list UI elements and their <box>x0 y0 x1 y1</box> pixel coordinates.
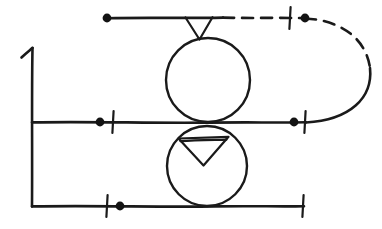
triangle-top-edge-doubling <box>181 140 227 142</box>
open-v-icon <box>186 17 213 39</box>
return-curve-solid-lower <box>306 68 370 123</box>
axis-arrow-flag-icon <box>22 48 33 58</box>
tick-middle-right <box>304 111 305 133</box>
middle-line <box>32 122 306 123</box>
dot-middle-left <box>96 118 105 127</box>
top-open-v-marker <box>186 17 213 39</box>
return-curve-dashed-upper <box>305 19 370 69</box>
top-line-dashed-segment <box>223 18 304 19</box>
dot-middle-right <box>290 118 299 127</box>
tick-middle-left <box>112 111 113 133</box>
diagram-canvas <box>0 0 382 229</box>
dot-top-right <box>301 14 310 23</box>
upper-circle <box>166 38 250 122</box>
sketch-drawing <box>0 0 382 229</box>
bottom-line <box>32 206 304 207</box>
bottom-line-path <box>32 206 304 207</box>
tick-bottom-right <box>302 195 303 217</box>
lower-closed-triangle-marker <box>179 137 229 166</box>
vertical-axis <box>22 48 33 207</box>
dot-bottom-left <box>116 202 125 211</box>
top-line <box>107 18 304 19</box>
dashed-return-curve <box>305 19 370 123</box>
vertical-axis-line <box>32 48 33 207</box>
node-dots <box>96 14 310 211</box>
dot-top-left <box>103 14 112 23</box>
middle-line-path <box>32 122 306 123</box>
tick-bottom-left <box>106 195 107 217</box>
tick-top-right <box>289 7 290 29</box>
top-line-solid-segment <box>107 18 223 19</box>
upper-circle-outline <box>166 38 250 122</box>
